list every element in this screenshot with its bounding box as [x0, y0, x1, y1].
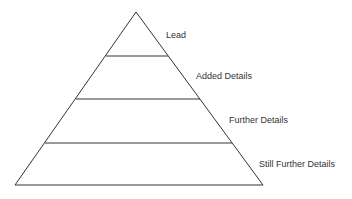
level-label-lead: Lead [166, 30, 186, 40]
level-label-still-further-details: Still Further Details [259, 159, 336, 169]
level-label-added-details: Added Details [196, 71, 253, 81]
level-label-further-details: Further Details [229, 115, 289, 125]
pyramid-diagram: Lead Added Details Further Details Still… [0, 0, 352, 199]
